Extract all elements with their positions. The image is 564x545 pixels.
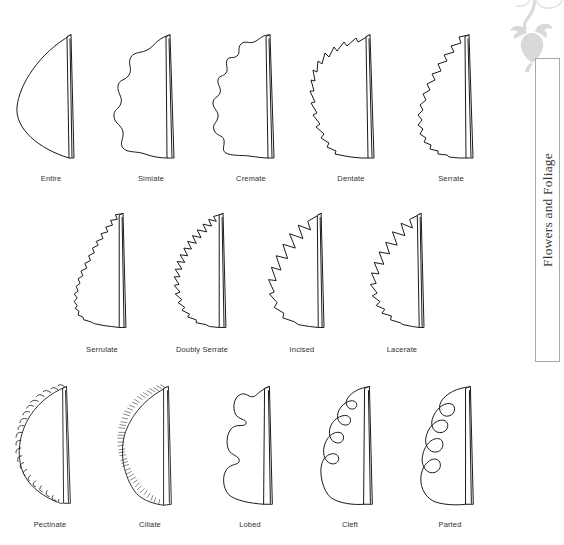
leaf-diagram-grid: Entire Simiate — [0, 0, 500, 545]
leaf-cell-ciliate[interactable]: Ciliate — [100, 362, 200, 530]
leaf-shape-lacerate — [354, 206, 450, 338]
leaf-shape-ciliate — [102, 379, 198, 513]
leaf-cell-doubly-serrate[interactable]: Doubly Serrate — [152, 190, 252, 355]
leaf-label: Dentate — [337, 174, 364, 184]
leaf-shape-lobed — [202, 379, 298, 513]
leaf-shape-parted — [402, 379, 498, 513]
leaf-label: Entire — [41, 174, 62, 184]
leaf-cell-entire[interactable]: Entire — [2, 14, 100, 184]
leaf-label: Pectinate — [34, 520, 67, 530]
leaf-label: Ciliate — [139, 520, 161, 530]
leaf-cell-serrate[interactable]: Serrate — [402, 14, 500, 184]
leaf-cell-cremate[interactable]: Cremate — [202, 14, 300, 184]
leaf-shape-pectinate — [2, 379, 98, 513]
leaf-cell-pectinate[interactable]: Pectinate — [0, 362, 100, 530]
leaf-label: Parted — [439, 520, 462, 530]
leaf-label: Doubly Serrate — [176, 345, 228, 355]
leaf-cell-parted[interactable]: Parted — [400, 362, 500, 530]
leaf-label: Cleft — [342, 520, 358, 530]
leaf-shape-entire — [3, 29, 99, 167]
leaf-margin-chart-page: Entire Simiate — [0, 0, 564, 545]
leaf-shape-serrate — [403, 29, 499, 167]
leaf-label: Lobed — [239, 520, 261, 530]
leaf-label: Lacerate — [387, 345, 417, 355]
leaf-shape-incised — [254, 206, 350, 338]
leaf-label: Incised — [290, 345, 315, 355]
leaf-shape-dentate — [303, 29, 399, 167]
leaf-cell-lacerate[interactable]: Lacerate — [352, 190, 452, 355]
leaf-label: Simiate — [138, 174, 164, 184]
leaf-cell-incised[interactable]: Incised — [252, 190, 352, 355]
leaf-cell-dentate[interactable]: Dentate — [302, 14, 400, 184]
leaf-shape-serrulate — [54, 206, 150, 338]
sidebar-title: Flowers and Foliage — [536, 58, 559, 362]
leaf-shape-doubly-serrate — [154, 206, 250, 338]
leaf-cell-simiate[interactable]: Simiate — [102, 14, 200, 184]
leaf-label: Serrate — [438, 174, 464, 184]
leaf-shape-crenate — [203, 29, 299, 167]
leaf-row: Pectinate — [0, 362, 500, 530]
leaf-cell-cleft[interactable]: Cleft — [300, 362, 400, 530]
leaf-label: Serrulate — [86, 345, 118, 355]
leaf-row: Entire Simiate — [0, 14, 500, 184]
leaf-shape-cleft — [302, 379, 398, 513]
leaf-label: Cremate — [236, 174, 266, 184]
leaf-cell-serrulate[interactable]: Serrulate — [52, 190, 152, 355]
sidebar: Flowers and Foliage — [500, 0, 564, 545]
leaf-row: Serrulate Doubly Serrate — [0, 190, 552, 355]
leaf-shape-sinuate — [103, 29, 199, 167]
leaf-cell-lobed[interactable]: Lobed — [200, 362, 300, 530]
